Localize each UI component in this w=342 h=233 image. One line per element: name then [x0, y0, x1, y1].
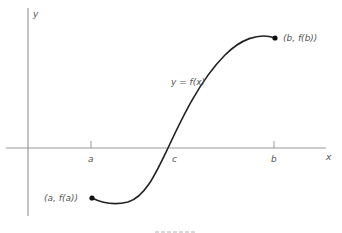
figure-caption-clipped: [155, 229, 195, 233]
curve-label: y = f(x): [170, 77, 205, 87]
function-curve: [92, 36, 275, 204]
point-a-fa: [89, 195, 94, 200]
tick-b-label: b: [271, 154, 277, 164]
x-axis-label: x: [325, 152, 332, 162]
point-b-fb: [272, 35, 277, 40]
y-axis-label: y: [32, 9, 39, 19]
tick-a-label: a: [88, 154, 94, 164]
tick-c-label: c: [172, 154, 177, 164]
point-b-fb-label: (b, f(b)): [283, 33, 317, 43]
intermediate-value-diagram: y x a c b y = f(x) (a, f(a)) (b, f(b)): [0, 0, 342, 233]
point-a-fa-label: (a, f(a)): [44, 193, 78, 203]
